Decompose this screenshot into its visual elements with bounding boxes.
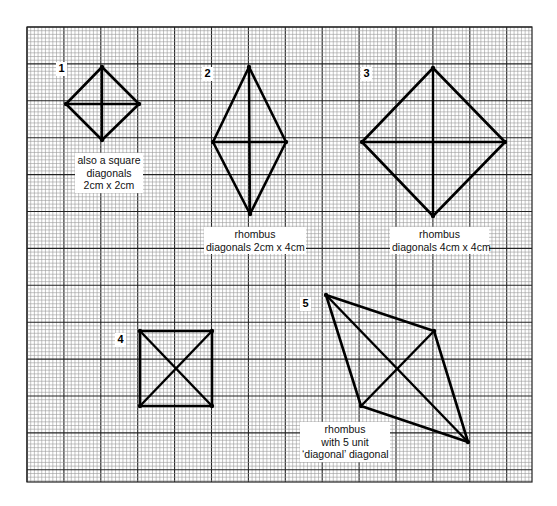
figure-2-caption: rhombus diagonals 2cm x 4cm xyxy=(204,227,306,254)
caption-line: with 5 unit xyxy=(302,436,388,449)
caption-line: diagonals 4cm x 4cm xyxy=(392,241,487,254)
figure-3-caption: rhombus diagonals 4cm x 4cm xyxy=(390,227,489,254)
figure-1-caption: also a square diagonals 2cm x 2cm xyxy=(75,153,143,193)
caption-line: rhombus xyxy=(392,228,487,241)
caption-line: 2cm x 2cm xyxy=(77,179,141,192)
figure-2-diagonal xyxy=(249,67,250,214)
figure-1-number: 1 xyxy=(56,62,67,76)
caption-line: rhombus xyxy=(206,228,304,241)
caption-line: diagonals 2cm x 4cm xyxy=(206,241,304,254)
caption-line: rhombus xyxy=(302,423,388,436)
figure-5-caption: rhombus with 5 unit ‘diagonal’ diagonal xyxy=(300,422,390,462)
caption-line: also a square xyxy=(77,154,141,167)
figure-4-number: 4 xyxy=(115,333,126,347)
caption-line: ‘diagonal’ diagonal xyxy=(302,448,388,461)
figure-2-number: 2 xyxy=(202,67,213,81)
caption-line: diagonals xyxy=(77,167,141,180)
figure-5-number: 5 xyxy=(300,297,311,311)
figure-3-number: 3 xyxy=(361,67,372,81)
